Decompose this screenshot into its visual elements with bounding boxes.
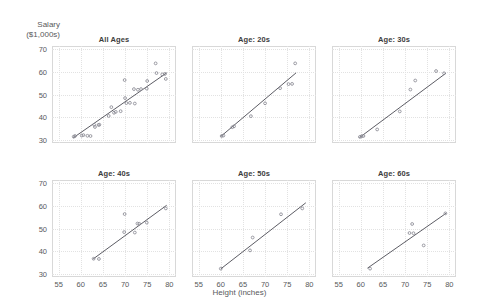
data-point (422, 244, 425, 247)
data-point (414, 79, 417, 82)
regression-line (221, 203, 306, 269)
data-point (124, 97, 127, 100)
data-point (249, 249, 252, 252)
scatter-panel: Age: 40s (52, 180, 176, 277)
data-point (411, 223, 414, 226)
data-point (155, 72, 158, 75)
data-point (123, 231, 126, 234)
x-tick-label: 60 (73, 280, 89, 289)
regression-line (367, 213, 446, 268)
x-tick-label: 80 (161, 280, 177, 289)
data-point (280, 213, 283, 216)
data-point (94, 126, 97, 129)
data-point (222, 134, 225, 137)
data-point (145, 87, 148, 90)
scatter-panel: Age: 60s (332, 180, 456, 277)
scatter-panel: All Ages (52, 46, 176, 143)
panel-canvas (192, 46, 316, 143)
y-tick-label: 70 (31, 45, 47, 54)
data-point (89, 135, 92, 138)
y-tick-label: 30 (31, 270, 47, 279)
data-point (250, 115, 253, 118)
panel-title: Age: 20s (192, 35, 316, 44)
data-point (291, 82, 294, 85)
data-point (133, 231, 136, 234)
x-tick-label: 60 (353, 280, 369, 289)
y-tick-label: 40 (31, 113, 47, 122)
data-point (137, 88, 140, 91)
x-tick-label: 70 (257, 280, 273, 289)
x-tick-label: 75 (139, 280, 155, 289)
x-tick-label: 70 (117, 280, 133, 289)
x-tick-label: 55 (191, 280, 207, 289)
data-point (233, 125, 236, 128)
data-point (408, 232, 411, 235)
data-point (412, 232, 415, 235)
panel-title: Age: 60s (332, 169, 456, 178)
data-point (154, 62, 157, 65)
figure-root: Salary ($1,000s) Height (inches) All Age… (0, 0, 479, 307)
regression-line (221, 73, 296, 137)
panel-canvas (192, 180, 316, 277)
data-point (123, 213, 126, 216)
scatter-panel: Age: 30s (332, 46, 456, 143)
data-point (301, 207, 304, 210)
data-point (82, 134, 85, 137)
data-point (369, 267, 372, 270)
y-tick-label: 50 (31, 225, 47, 234)
data-point (133, 102, 136, 105)
data-point (133, 88, 136, 91)
data-point (264, 102, 267, 105)
x-tick-label: 80 (441, 280, 457, 289)
data-point (86, 134, 89, 137)
x-tick-label: 60 (213, 280, 229, 289)
regression-line (73, 73, 166, 138)
data-point (129, 101, 132, 104)
x-tick-label: 65 (375, 280, 391, 289)
data-point (398, 110, 401, 113)
x-axis-label: Height (inches) (0, 288, 479, 297)
data-point (119, 110, 122, 113)
x-tick-label: 55 (51, 280, 67, 289)
data-point (145, 221, 148, 224)
panel-canvas (52, 180, 176, 277)
regression-line (359, 73, 445, 137)
x-tick-label: 75 (419, 280, 435, 289)
panel-title: Age: 40s (52, 169, 176, 178)
y-tick-label: 70 (31, 179, 47, 188)
data-point (98, 123, 101, 126)
panel-title: Age: 30s (332, 35, 456, 44)
data-point (409, 88, 412, 91)
data-point (140, 88, 143, 91)
data-point (146, 80, 149, 83)
data-point (376, 128, 379, 131)
y-tick-label: 60 (31, 68, 47, 77)
data-point (164, 207, 167, 210)
panel-title: Age: 50s (192, 169, 316, 178)
y-axis-label-line1: Salary (8, 20, 60, 30)
data-point (279, 87, 282, 90)
y-tick-label: 50 (31, 91, 47, 100)
panel-canvas (332, 46, 456, 143)
data-point (125, 102, 128, 105)
data-point (287, 83, 290, 86)
data-point (294, 62, 297, 65)
panel-canvas (332, 180, 456, 277)
x-tick-label: 80 (301, 280, 317, 289)
y-tick-label: 60 (31, 202, 47, 211)
x-tick-label: 65 (95, 280, 111, 289)
data-point (164, 78, 167, 81)
y-tick-label: 40 (31, 247, 47, 256)
x-tick-label: 65 (235, 280, 251, 289)
regression-line (93, 205, 167, 259)
scatter-panel: Age: 20s (192, 46, 316, 143)
panel-canvas (52, 46, 176, 143)
data-point (98, 258, 101, 261)
data-point (251, 236, 254, 239)
x-tick-label: 70 (397, 280, 413, 289)
data-point (110, 106, 113, 109)
data-point (107, 115, 110, 118)
data-point (123, 79, 126, 82)
x-tick-label: 75 (279, 280, 295, 289)
data-point (114, 110, 117, 113)
